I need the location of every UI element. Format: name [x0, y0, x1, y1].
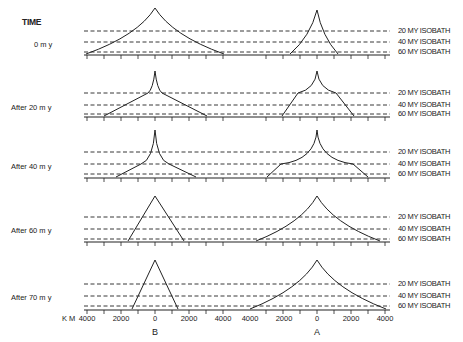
- panel-label-60my: After 60 m y: [11, 226, 51, 235]
- profile-b: [128, 196, 184, 241]
- isobath-label: 20 MY ISOBATH: [398, 26, 450, 35]
- axis-tick-a-2000-left: 2000: [276, 314, 293, 323]
- profile-a: [256, 196, 380, 241]
- profile-a: [290, 10, 338, 54]
- isobath-label: 40 MY ISOBATH: [398, 224, 450, 233]
- panel-label-0my: 0 m y: [34, 40, 52, 49]
- site-label-b: B: [152, 327, 158, 337]
- axis-tick-b-4000-right: 4000: [215, 314, 232, 323]
- isobath-label: 20 MY ISOBATH: [398, 279, 450, 288]
- isobath-label: 40 MY ISOBATH: [398, 159, 450, 168]
- axis-tick-b-2000-right: 2000: [181, 314, 198, 323]
- axis-tick-a-4000-right: 4000: [377, 314, 394, 323]
- profile-a: [267, 130, 368, 177]
- axis-tick-b-4000-left: 4000: [79, 314, 96, 323]
- axis-tick-b-2000-left: 2000: [113, 314, 130, 323]
- axis-tick-b-0: 0: [153, 314, 157, 323]
- isobath-label: 40 MY ISOBATH: [398, 37, 450, 46]
- panel-label-40my: After 40 m y: [11, 162, 51, 171]
- isobath-label: 60 MY ISOBATH: [398, 109, 450, 118]
- site-label-a: A: [314, 327, 320, 337]
- isobath-label: 60 MY ISOBATH: [398, 47, 450, 56]
- panel-label-70my: After 70 m y: [11, 293, 51, 302]
- axis-unit: K M: [62, 314, 75, 323]
- profile-b: [132, 260, 178, 309]
- axis-tick-a-2000-right: 2000: [343, 314, 360, 323]
- isobath-label: 40 MY ISOBATH: [398, 100, 450, 109]
- time-header: TIME: [22, 17, 41, 27]
- isobath-label: 20 MY ISOBATH: [398, 212, 450, 221]
- isobath-label: 60 MY ISOBATH: [398, 234, 450, 243]
- profile-a: [250, 260, 386, 309]
- isobath-label: 60 MY ISOBATH: [398, 169, 450, 178]
- profile-b: [104, 71, 207, 116]
- profile-a: [282, 71, 354, 116]
- isobath-label: 60 MY ISOBATH: [398, 301, 450, 310]
- profile-b: [116, 130, 196, 177]
- isobath-label: 20 MY ISOBATH: [398, 88, 450, 97]
- profile-plot: [0, 0, 463, 342]
- subsidence-diagram: TIME 0 m y After 20 m y After 40 m y Aft…: [0, 0, 463, 342]
- isobath-label: 40 MY ISOBATH: [398, 291, 450, 300]
- axis-tick-a-4000-left: 4000: [242, 314, 259, 323]
- panel-label-20my: After 20 m y: [11, 103, 51, 112]
- axis-tick-a-0: 0: [315, 314, 319, 323]
- isobath-label: 20 MY ISOBATH: [398, 147, 450, 156]
